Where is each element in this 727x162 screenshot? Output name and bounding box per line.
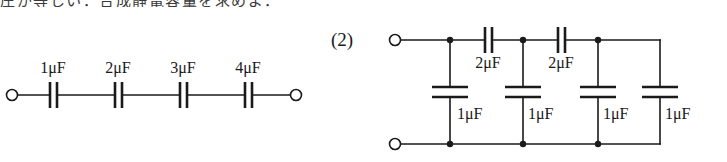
capacitor-cs2-label: 2μF <box>548 54 574 72</box>
node-bottom-2 <box>520 141 526 147</box>
capacitor-cp2-label: 1μF <box>528 105 554 123</box>
shunt-branch-3 <box>580 37 616 147</box>
node-top-2 <box>520 37 526 43</box>
terminal-bottom-left-f2 <box>390 139 401 150</box>
capacitor-c3-label: 3μF <box>170 59 196 77</box>
figure-1-series-circuit: 1μF 2μF 3μF 4μF <box>7 59 302 108</box>
circuit-diagrams-svg: 1μF 2μF 3μF 4μF (2) <box>0 0 727 162</box>
terminal-left-f1 <box>7 90 18 101</box>
capacitor-c3 <box>180 82 187 108</box>
node-bottom-3 <box>595 141 601 147</box>
capacitor-cs1 <box>485 27 492 53</box>
capacitor-cp1-label: 1μF <box>457 105 483 123</box>
figure-page: 圧が等しい．合成静電容量を求めよ． 1μF 2μF <box>0 0 727 162</box>
terminal-top-left-f2 <box>390 35 401 46</box>
shunt-branch-4 <box>642 40 678 144</box>
capacitor-cs2 <box>558 27 565 53</box>
capacitor-cs1-label: 2μF <box>475 54 501 72</box>
capacitor-c1-label: 1μF <box>40 59 66 77</box>
figure-2-ladder-circuit: 2μF 2μF 1μF <box>390 27 691 150</box>
capacitor-c2-label: 2μF <box>105 59 131 77</box>
capacitor-cp4-label: 1μF <box>665 105 691 123</box>
capacitor-c2 <box>115 82 122 108</box>
shunt-branch-1 <box>432 37 468 147</box>
terminal-right-f1 <box>291 90 302 101</box>
node-bottom-1 <box>447 141 453 147</box>
shunt-branch-2 <box>505 37 541 147</box>
capacitor-c4-label: 4μF <box>235 59 261 77</box>
node-top-1 <box>447 37 453 43</box>
capacitor-c4 <box>245 82 252 108</box>
figure-2-number-label: (2) <box>331 29 353 51</box>
node-top-3 <box>595 37 601 43</box>
capacitor-cp3-label: 1μF <box>603 105 629 123</box>
capacitor-c1 <box>50 82 57 108</box>
